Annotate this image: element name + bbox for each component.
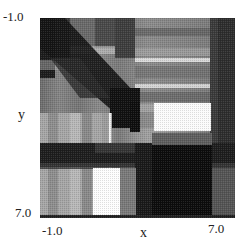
y-axis-max-label: 7.0 [15,206,31,219]
heatmap-image [40,18,235,218]
x-axis-min-label: -1.0 [42,224,63,237]
heatmap-plot-area [40,18,235,218]
y-axis-title: y [18,108,25,121]
x-axis-title: x [140,226,147,239]
x-axis-max-label: 7.0 [208,222,224,235]
y-axis-min-label: -1.0 [3,10,24,23]
